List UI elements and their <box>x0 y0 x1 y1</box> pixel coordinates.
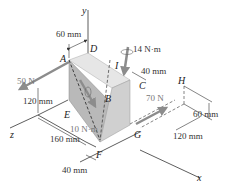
dim-label-60mm-right: 60 mm <box>193 109 218 119</box>
point-label-C: C <box>139 80 146 91</box>
point-label-H: H <box>177 75 186 86</box>
dim-label-120mm-right: 120 mm <box>173 131 203 141</box>
point-label-I: I <box>114 60 119 71</box>
dim-label-160mm: 160 mm <box>50 134 80 144</box>
couple-label-10Nm: 10 N·m <box>70 124 98 134</box>
point-label-A: A <box>59 53 67 64</box>
couple-arrow-14Nm <box>124 47 128 74</box>
dim-label-60mm-top: 60 mm <box>56 29 81 39</box>
point-label-B: B <box>105 93 111 104</box>
line-H-right-top <box>184 86 212 102</box>
dashed-line-H-lower <box>140 104 184 128</box>
point-label-E: E <box>63 109 70 120</box>
diagram-canvas: y x z A B C D E F G H I 50 N 70 N 14 N·m… <box>0 0 228 184</box>
axis-label-y: y <box>81 5 87 16</box>
dim-label-40mm-top: 40 mm <box>141 66 166 76</box>
axis-label-z: z <box>9 129 14 140</box>
dim-label-120mm-left: 120 mm <box>23 96 53 106</box>
dim-label-40mm-bottom: 40 mm <box>62 165 87 175</box>
couple-label-14Nm: 14 N·m <box>133 44 161 54</box>
x-axis <box>140 150 200 178</box>
point-label-G: G <box>134 129 141 140</box>
axis-label-x: x <box>196 172 202 183</box>
point-label-F: F <box>95 149 103 160</box>
ground-edge-F-bottom <box>86 142 96 147</box>
dashed-line-GH <box>130 100 175 124</box>
z-axis <box>10 115 38 128</box>
dim-60mm-top <box>70 40 87 48</box>
dim-40mm-bottom <box>86 155 96 160</box>
point-label-D: D <box>89 43 98 54</box>
force-label-70N: 70 N <box>146 93 164 103</box>
force-label-50N: 50 N <box>17 76 35 86</box>
